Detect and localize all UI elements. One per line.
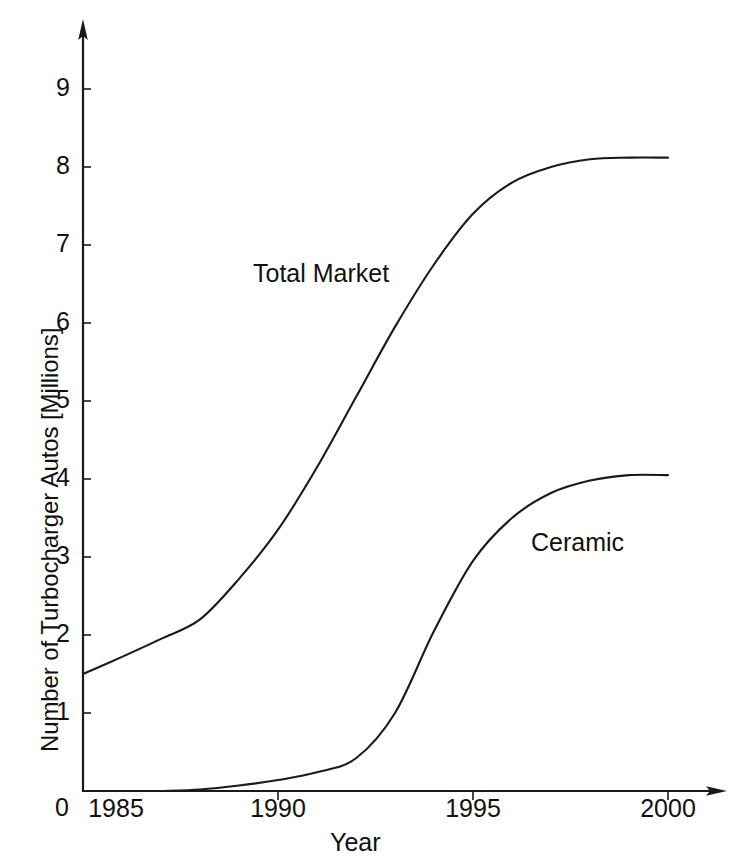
chart-figure: 123456789 1985199019952000 0 Number of T…	[0, 0, 734, 861]
y-axis-title: Number of Turbocharger Autos [Millions]	[36, 328, 64, 752]
x-tick-label: 1985	[71, 796, 161, 821]
series-line-total-market	[83, 158, 668, 674]
x-axis-title: Year	[330, 828, 381, 857]
chart-series-group	[83, 158, 668, 791]
series-line-ceramic	[161, 475, 668, 791]
y-tick-label: 9	[44, 75, 70, 100]
chart-plot-area	[0, 0, 734, 861]
origin-zero-label: 0	[55, 795, 75, 820]
x-tick-label: 2000	[623, 796, 713, 821]
y-tick-label: 8	[44, 153, 70, 178]
series-label-total-market: Total Market	[253, 259, 389, 288]
series-label-ceramic: Ceramic	[531, 528, 624, 557]
x-tick-label: 1995	[428, 796, 518, 821]
y-axis	[78, 19, 88, 792]
x-tick-label: 1990	[233, 796, 323, 821]
y-tick-label: 7	[44, 231, 70, 256]
